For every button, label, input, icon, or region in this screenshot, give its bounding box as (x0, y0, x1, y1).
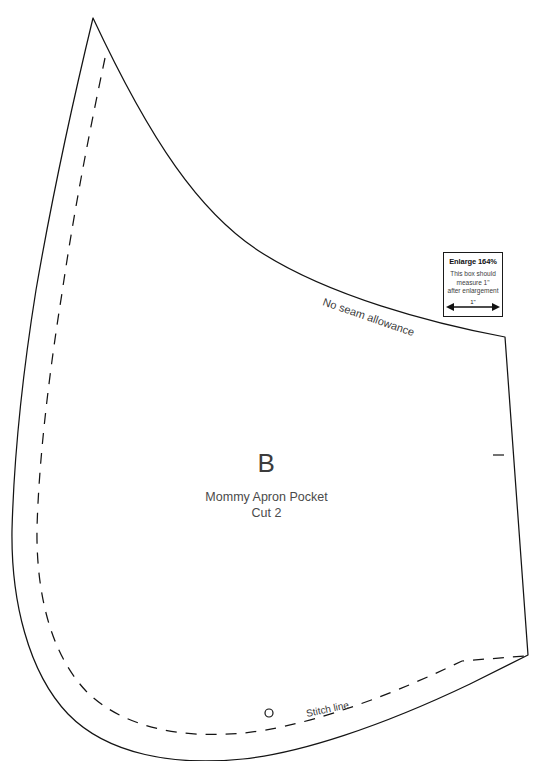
enlarge-note-line-2: measure 1" (444, 279, 502, 288)
enlarge-percentage-title: Enlarge 164% (449, 257, 497, 267)
measure-arrow-wrapper: 1" (445, 298, 501, 312)
enlargement-check-box: Enlarge 164% This box should measure 1" … (443, 252, 503, 317)
enlarge-note-line-1: This box should (444, 270, 502, 279)
enlarge-note-line-3: after enlargement (444, 287, 502, 296)
pattern-drawing: No seam allowance Stitch line (0, 0, 533, 761)
enlarge-note: This box should measure 1" after enlarge… (444, 270, 502, 296)
pattern-sheet: No seam allowance Stitch line B Mommy Ap… (0, 0, 533, 761)
cutting-line-path (12, 18, 528, 761)
stitch-line-label: Stitch line (305, 699, 350, 719)
arrow-measurement-caption: 1" (445, 298, 501, 307)
stitch-line-path (37, 58, 524, 734)
drill-hole-icon (265, 709, 273, 717)
